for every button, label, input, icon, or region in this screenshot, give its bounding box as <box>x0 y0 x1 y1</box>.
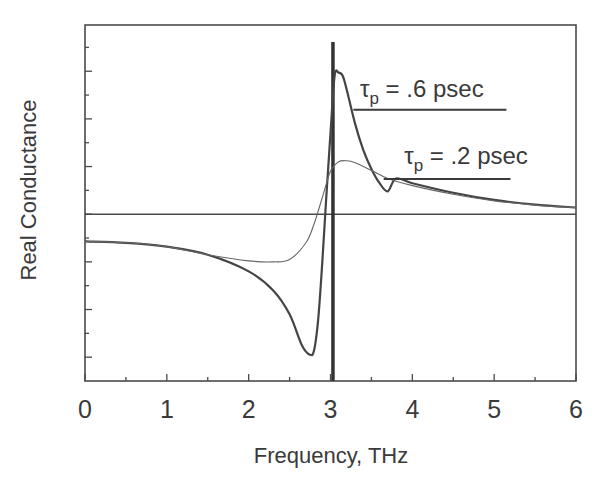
y-axis-title: Real Conductance <box>16 99 41 280</box>
annotation-label: τp = .6 psec <box>360 75 484 108</box>
x-tick-label: 2 <box>242 395 256 423</box>
x-tick-label: 0 <box>78 395 92 423</box>
x-tick-label: 3 <box>324 395 338 423</box>
data-series <box>85 70 576 355</box>
x-axis-title: Frequency, THz <box>254 443 408 468</box>
x-tick-label: 5 <box>487 395 501 423</box>
plot-border <box>85 25 576 381</box>
x-tick-label: 1 <box>160 395 174 423</box>
annotation-label: τp = .2 psec <box>404 142 528 175</box>
series-line-tau-0-6 <box>85 70 576 355</box>
series-line-tau-0-2 <box>85 161 576 262</box>
annotations: τp = .6 psecτp = .2 psec <box>353 75 527 178</box>
x-tick-label: 6 <box>569 395 583 423</box>
x-tick-label: 4 <box>405 395 419 423</box>
chart-canvas: 0123456 τp = .6 psecτp = .2 psec Frequen… <box>0 0 597 484</box>
x-tick-labels: 0123456 <box>78 395 583 423</box>
plot-frame <box>85 25 576 381</box>
